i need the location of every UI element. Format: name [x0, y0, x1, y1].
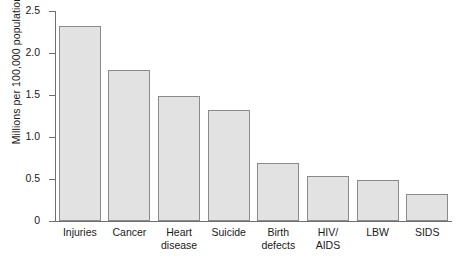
x-axis-line	[55, 221, 452, 222]
y-axis-tick-label: 1.0	[25, 130, 40, 142]
x-axis-label: Birth defects	[254, 226, 304, 251]
bar	[59, 26, 101, 221]
y-axis-title: Millions per 100,000 population	[10, 0, 22, 160]
bar-chart-figure: Millions per 100,000 population 00.51.01…	[0, 0, 456, 258]
x-axis-label: LBW	[353, 226, 403, 239]
bar	[108, 70, 150, 221]
bar	[406, 194, 448, 221]
y-axis-tick-label: 1.5	[25, 88, 40, 100]
x-axis-label: Cancer	[105, 226, 155, 239]
y-axis-tick: 0.5	[49, 179, 55, 180]
y-axis-tick: 1.0	[49, 137, 55, 138]
y-axis-tick-label: 0	[34, 214, 40, 226]
bar	[158, 96, 200, 221]
x-axis-label: Injuries	[55, 226, 105, 239]
bar	[357, 180, 399, 221]
x-axis-label: Heart disease	[154, 226, 204, 251]
y-axis-tick-label: 2.5	[25, 4, 40, 16]
bar	[257, 163, 299, 221]
x-axis-label: HIV/ AIDS	[303, 226, 353, 251]
y-axis-line	[55, 11, 56, 222]
y-axis-tick: 0	[49, 221, 55, 222]
bar	[307, 176, 349, 221]
y-axis-tick-label: 2.0	[25, 46, 40, 58]
bar	[208, 110, 250, 221]
y-axis-tick: 2.5	[49, 11, 55, 12]
y-axis-tick: 2.0	[49, 53, 55, 54]
x-axis-label: SIDS	[402, 226, 452, 239]
y-axis-tick-label: 0.5	[25, 172, 40, 184]
plot-area: 00.51.01.52.02.5 InjuriesCancerHeart dis…	[55, 11, 452, 221]
x-axis-label: Suicide	[204, 226, 254, 239]
y-axis-tick: 1.5	[49, 95, 55, 96]
